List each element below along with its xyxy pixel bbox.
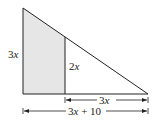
label-inner-height: 2x <box>69 60 80 72</box>
label-base-total: 3x + 10 <box>68 105 102 117</box>
shaded-region <box>23 8 65 94</box>
label-left-height: 3x <box>8 48 19 60</box>
dimension-base-total: 3x + 10 <box>23 105 148 117</box>
triangle-diagram: 3x 2x 3x 3x + 10 <box>0 0 156 120</box>
